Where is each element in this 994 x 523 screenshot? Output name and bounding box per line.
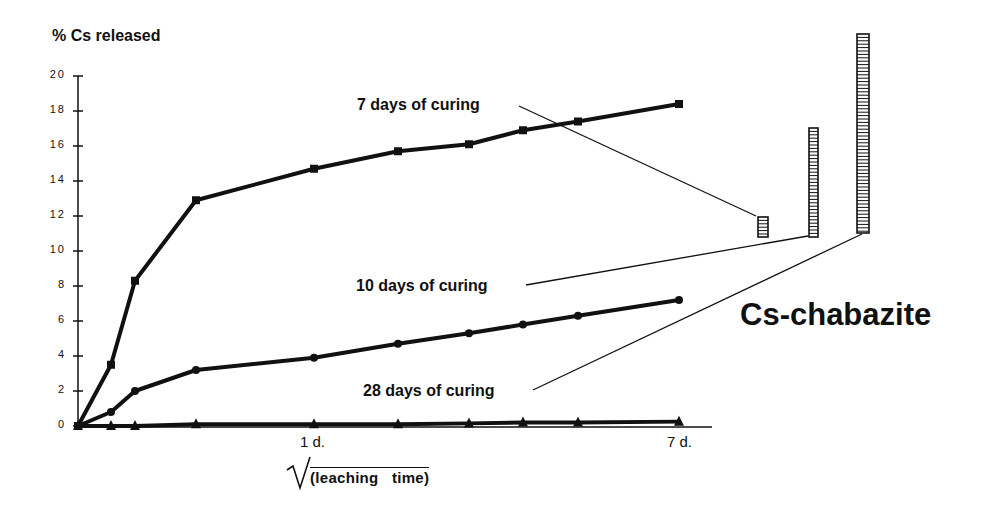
- square-marker: [107, 361, 115, 369]
- y-tick-label: 8: [46, 278, 66, 290]
- circle-marker: [192, 366, 200, 374]
- circle-marker: [394, 340, 402, 348]
- square-marker: [675, 100, 683, 108]
- series-line: [78, 422, 679, 426]
- bar-10-days: [809, 128, 818, 237]
- square-marker: [192, 196, 200, 204]
- chart-canvas: [0, 0, 994, 523]
- y-tick-label: 20: [46, 68, 66, 80]
- bar-28-days: [857, 34, 869, 233]
- series-label-10-days: 10 days of curing: [356, 277, 488, 295]
- sqrt-icon: [287, 457, 310, 488]
- y-tick-label: 16: [46, 138, 66, 150]
- bar-7-days: [758, 217, 768, 237]
- square-marker: [519, 126, 527, 134]
- circle-marker: [107, 408, 115, 416]
- y-tick-label: 0: [46, 418, 66, 430]
- y-tick-label: 10: [46, 243, 66, 255]
- square-marker: [394, 147, 402, 155]
- circle-marker: [131, 387, 139, 395]
- circle-marker: [519, 321, 527, 329]
- series-label-28-days: 28 days of curing: [363, 382, 495, 400]
- circle-marker: [310, 354, 318, 362]
- series-2: [74, 296, 683, 430]
- circle-marker: [465, 329, 473, 337]
- circle-marker: [675, 296, 683, 304]
- material-label: Cs-chabazite: [740, 297, 931, 333]
- series-3: [73, 416, 684, 430]
- y-axis-label: % Cs released: [52, 27, 161, 45]
- y-tick-label: 2: [46, 383, 66, 395]
- x-axis-label: (leaching time): [310, 467, 429, 486]
- square-marker: [465, 140, 473, 148]
- series-label-7-days: 7 days of curing: [357, 96, 480, 114]
- circle-marker: [574, 312, 582, 320]
- x-tick-7d: 7 d.: [667, 433, 692, 450]
- square-marker: [131, 277, 139, 285]
- y-tick-label: 18: [46, 103, 66, 115]
- square-marker: [310, 165, 318, 173]
- y-tick-label: 4: [46, 348, 66, 360]
- leader-10-days: [526, 236, 808, 285]
- leader-7-days: [519, 106, 756, 216]
- square-marker: [574, 118, 582, 126]
- inset-bars: [758, 34, 869, 237]
- y-tick-label: 14: [46, 173, 66, 185]
- y-tick-label: 12: [46, 208, 66, 220]
- data-series: [73, 100, 684, 430]
- y-tick-label: 6: [46, 313, 66, 325]
- x-tick-1d: 1 d.: [300, 433, 325, 450]
